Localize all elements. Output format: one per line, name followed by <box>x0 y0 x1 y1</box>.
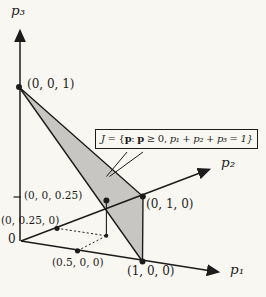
axis-label-p3: p₃ <box>11 4 25 18</box>
construction-line-parallel-p1 <box>57 228 106 236</box>
callout-geq-zero: ≥ 0, <box>144 133 170 144</box>
interior-simplex-point-dot <box>103 198 109 204</box>
construction-line-parallel-p2 <box>78 236 107 251</box>
callout-pointer-line-right <box>110 152 144 177</box>
simplex-figure: p₃ p₂ p₁ 0 (0, 0, 1) (0, 1, 0) (1, 0, 0)… <box>0 0 266 297</box>
callout-p-vector-2: p <box>137 133 144 144</box>
axis-label-p1: p₁ <box>230 263 244 277</box>
point-010-dot <box>140 194 146 200</box>
point-half-e1-label: (0.5, 0, 0) <box>52 257 104 268</box>
origin-label: 0 <box>8 233 16 245</box>
point-quarter-e2-label: (0, 0.25, 0) <box>1 215 59 226</box>
point-half-e1-dot <box>75 248 80 253</box>
simplex-definition-callout: J = {p: p ≥ 0, p₁ + p₂ + p₃ = 1} <box>95 129 258 149</box>
p1-axis <box>21 241 218 272</box>
axis-label-p2: p₂ <box>221 156 235 170</box>
point-quarter-e3-label: (0, 0, 0.25) <box>24 190 82 201</box>
point-quarter-e2-dot <box>54 226 59 231</box>
callout-sum-condition: p₁ + p₂ + p₃ = 1} <box>170 133 253 144</box>
callout-eq-brace: = { <box>105 133 125 144</box>
point-001-dot <box>16 84 22 90</box>
point-010-label: (0, 1, 0) <box>146 198 194 210</box>
point-001-label: (0, 0, 1) <box>27 78 75 90</box>
point-100-label: (1, 0, 0) <box>127 265 175 277</box>
floor-projection-point-dot <box>104 234 108 238</box>
